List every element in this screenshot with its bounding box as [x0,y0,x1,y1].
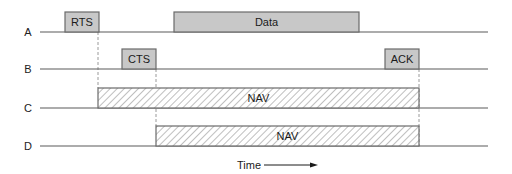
row-label-c: C [24,102,32,114]
timing-diagram: ABCD RTSDataCTSACKNAVNAV Time [0,0,512,174]
row-label-b: B [24,63,31,75]
frame-label: NAV [248,92,270,104]
frame-nav-c: NAV [98,88,419,108]
frame-ack: ACK [385,49,419,69]
frame-rts: RTS [65,12,99,32]
arrow-right-icon [310,163,318,168]
frame-label: CTS [128,53,150,65]
frame-label: NAV [277,130,299,142]
frame-nav-d: NAV [156,126,419,146]
frame-data: Data [174,12,359,32]
frame-label: ACK [391,53,414,65]
time-axis: Time [237,159,318,171]
time-axis-label: Time [237,159,261,171]
frame-label: RTS [71,16,93,28]
row-label-a: A [24,26,32,38]
frame-cts: CTS [122,49,156,69]
frame-label: Data [255,16,279,28]
row-label-d: D [24,140,32,152]
